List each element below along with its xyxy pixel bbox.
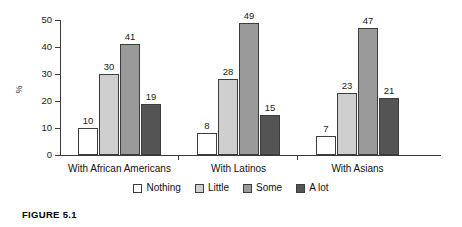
bar	[141, 104, 161, 155]
legend-swatch-icon	[296, 184, 305, 193]
category-label: With Asians	[278, 163, 438, 174]
bar	[239, 23, 259, 155]
x-axis-line	[60, 155, 441, 156]
legend-label: Little	[208, 183, 229, 193]
bar-value-label: 15	[252, 103, 288, 113]
bar	[379, 98, 399, 155]
y-tick-10	[55, 128, 60, 129]
bar-value-label: 47	[350, 16, 386, 26]
chart-plot-area: 01020304050 % 1030411982849157234721 Wit…	[0, 0, 462, 200]
bar	[316, 136, 336, 155]
bar	[260, 115, 280, 156]
legend-swatch-icon	[133, 184, 142, 193]
legend-swatch-icon	[243, 184, 252, 193]
legend-label: Some	[256, 183, 282, 193]
legend-item: Nothing	[133, 183, 180, 193]
bar	[78, 128, 98, 155]
y-tick-20	[55, 101, 60, 102]
bar-value-label: 21	[371, 86, 407, 96]
y-tick-label-50: 50	[12, 15, 52, 24]
legend-item: Some	[243, 183, 282, 193]
legend-label: Nothing	[146, 183, 180, 193]
y-tick-50	[55, 20, 60, 21]
y-tick-label-40: 40	[12, 42, 52, 51]
legend-item: A lot	[296, 183, 328, 193]
y-tick-40	[55, 47, 60, 48]
legend-label: A lot	[309, 183, 328, 193]
y-tick-30	[55, 74, 60, 75]
bar	[337, 93, 357, 155]
y-tick-label-0: 0	[12, 150, 52, 159]
legend-item: Little	[195, 183, 229, 193]
y-tick-label-10: 10	[12, 123, 52, 132]
legend-swatch-icon	[195, 184, 204, 193]
bar-value-label: 49	[231, 11, 267, 21]
y-axis-line	[60, 20, 61, 155]
y-axis-title: %	[15, 70, 24, 110]
bar	[99, 74, 119, 155]
y-tick-0	[55, 155, 60, 156]
x-tick-separator	[297, 155, 298, 160]
figure-5-1: 01020304050 % 1030411982849157234721 Wit…	[0, 0, 462, 227]
x-tick-separator	[178, 155, 179, 160]
bar	[197, 133, 217, 155]
figure-caption: FIGURE 5.1	[22, 209, 77, 220]
bar	[218, 79, 238, 155]
bar-value-label: 41	[112, 32, 148, 42]
chart-legend: NothingLittleSomeA lot	[0, 183, 462, 193]
bar-value-label: 19	[133, 92, 169, 102]
